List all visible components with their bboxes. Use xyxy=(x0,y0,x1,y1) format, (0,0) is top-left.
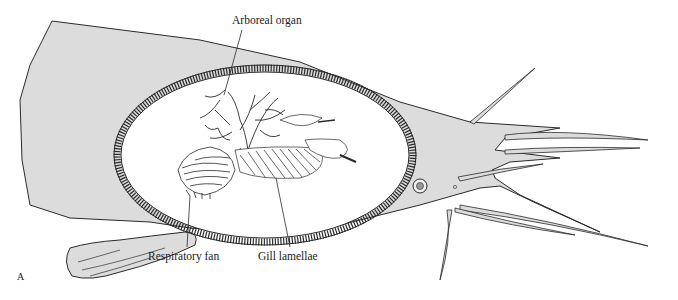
panel-letter: A xyxy=(17,271,24,282)
label-respiratory-fan: Respiratory fan xyxy=(148,250,219,262)
nasal-barbel xyxy=(470,68,535,124)
maxillary-barbel xyxy=(505,132,648,140)
label-arboreal-organ: Arboreal organ xyxy=(232,14,302,26)
catfish-diagram: Arboreal organ Respiratory fan Gill lame… xyxy=(0,0,678,300)
label-gill-lamellae: Gill lamellae xyxy=(258,250,318,262)
